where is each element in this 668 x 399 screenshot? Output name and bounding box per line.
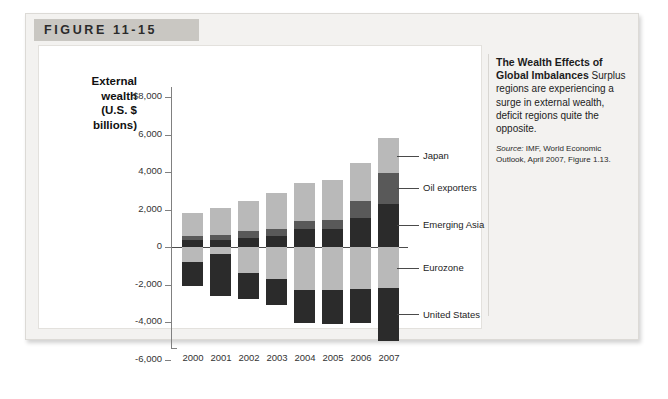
figure-header-band: FIGURE 11-15 (34, 19, 199, 41)
bar-column[interactable] (294, 56, 315, 351)
y-axis-title-line-3: (U.S. $ (45, 103, 137, 118)
bar-segment (350, 163, 371, 201)
bar-column[interactable] (322, 56, 343, 351)
y-tick-mark (165, 285, 171, 286)
callout-oil-exporters: Oil exporters (397, 182, 477, 193)
y-axis-title-line-1: External (45, 74, 137, 89)
bar-segment (294, 229, 315, 247)
caption-title: The Wealth Effects of Global Imbalances (496, 56, 603, 81)
bar-column[interactable] (182, 56, 203, 351)
bar-segment (266, 193, 287, 230)
callout-leader-line (397, 188, 419, 189)
figure-number-label: FIGURE 11-15 (34, 23, 157, 37)
bar-segment (210, 240, 231, 248)
bar-column[interactable] (378, 56, 399, 351)
x-axis-label: 2007 (372, 352, 406, 363)
callout-label: United States (423, 309, 480, 320)
bar-segment (322, 247, 343, 290)
bar-segment (238, 231, 259, 238)
bar-segment (238, 201, 259, 231)
y-tick-label: -2,000 (135, 278, 162, 289)
bar-segment (182, 236, 203, 241)
bar-column[interactable] (210, 56, 231, 351)
callout-emerging-asia: Emerging Asia (397, 219, 484, 230)
y-tick-mark (165, 97, 171, 98)
callout-united-states: United States (397, 309, 480, 320)
chart-panel: External wealth (U.S. $ billions) $8,000… (38, 45, 482, 329)
bar-segment (182, 213, 203, 236)
zero-baseline (172, 247, 408, 248)
y-axis-title: External wealth (U.S. $ billions) (45, 74, 137, 132)
bar-segment (378, 247, 399, 288)
y-tick-mark (165, 172, 171, 173)
bar-segment (322, 229, 343, 247)
bar-column[interactable] (266, 56, 287, 351)
y-axis-title-line-2: wealth (45, 89, 137, 104)
bar-segment (378, 204, 399, 247)
figure-caption: The Wealth Effects of Global Imbalances … (496, 56, 628, 165)
bar-segment (294, 247, 315, 290)
caption-divider (488, 54, 489, 316)
callout-japan: Japan (397, 150, 449, 161)
bar-segment (322, 180, 343, 220)
bar-segment (294, 183, 315, 221)
caption-source: Source: IMF, World Economic Outlook, Apr… (496, 144, 628, 165)
callout-label: Japan (423, 150, 449, 161)
y-tick-label: 2,000 (138, 203, 162, 214)
callout-label: Emerging Asia (423, 219, 484, 230)
bar-segment (350, 247, 371, 289)
bar-segment (266, 279, 287, 305)
bar-segment (322, 220, 343, 229)
callout-label: Eurozone (423, 262, 464, 273)
bar-segment (266, 247, 287, 279)
bar-segment (210, 235, 231, 240)
y-axis-foot (171, 348, 177, 349)
callout-leader-line (397, 156, 419, 157)
y-tick-label: -6,000 (135, 353, 162, 364)
y-tick-mark (165, 360, 171, 361)
callout-label: Oil exporters (423, 182, 477, 193)
plot-area: $8,0006,0004,0002,0000-2,000-4,000-6,000… (171, 56, 401, 320)
y-tick-mark (165, 247, 171, 248)
bar-segment (350, 218, 371, 247)
bar-segment (294, 290, 315, 323)
bar-column[interactable] (238, 56, 259, 351)
bar-segment (238, 247, 259, 273)
y-tick-label: 0 (157, 240, 162, 251)
caption-source-label: Source: (496, 144, 524, 153)
y-tick-mark (165, 210, 171, 211)
y-tick-label: -4,000 (135, 315, 162, 326)
callout-eurozone: Eurozone (397, 262, 464, 273)
bar-segment (294, 221, 315, 229)
bar-segment (182, 262, 203, 286)
y-tick-label: 4,000 (138, 165, 162, 176)
bar-segment (238, 238, 259, 247)
bar-segment (322, 290, 343, 324)
y-tick-mark (165, 135, 171, 136)
callout-leader-line (397, 268, 419, 269)
bar-segment (210, 254, 231, 296)
y-axis-title-line-4: billions) (45, 118, 137, 133)
bar-segment (378, 173, 399, 204)
y-axis-line (171, 87, 172, 349)
bar-column[interactable] (350, 56, 371, 351)
bar-segment (210, 208, 231, 235)
bar-segment (378, 288, 399, 341)
bar-segment (266, 236, 287, 247)
bar-segment (350, 201, 371, 218)
bar-segment (238, 273, 259, 298)
bar-segment (182, 247, 203, 262)
bar-segment (378, 138, 399, 173)
callout-leader-line (397, 314, 419, 315)
y-tick-mark (165, 322, 171, 323)
bar-segment (350, 289, 371, 323)
callout-leader-line (397, 225, 419, 226)
bar-segment (266, 229, 287, 236)
y-tick-label: $8,000 (133, 90, 162, 101)
figure-card: FIGURE 11-15 External wealth (U.S. $ bil… (25, 13, 639, 340)
caption-text: The Wealth Effects of Global Imbalances … (496, 56, 628, 135)
y-tick-label: 6,000 (138, 128, 162, 139)
